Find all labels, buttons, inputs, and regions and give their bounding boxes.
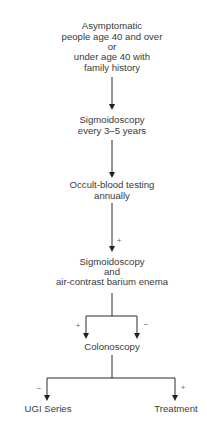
node-sigmoidoscopy-periodic-line-2: every 3–5 years: [78, 125, 146, 136]
node-start-line-1: Asymptomatic: [62, 20, 163, 31]
node-start-line-4: under age 40 with: [62, 51, 163, 62]
edge-label-positive: +: [181, 384, 186, 392]
node-sigmoidoscopy-barium-line-3: air-contrast barium enema: [56, 276, 168, 287]
node-occult-blood: Occult-blood testing annually: [70, 179, 155, 201]
edge-label-positive: +: [76, 322, 81, 330]
node-occult-blood-line-1: Occult-blood testing: [70, 179, 155, 190]
edge-barium-branch: [86, 316, 137, 335]
node-sigmoidoscopy-periodic-line-1: Sigmoidoscopy: [78, 114, 146, 125]
arrowhead-icon: [44, 395, 50, 401]
edge-label-positive: +: [117, 237, 122, 245]
arrowhead-icon: [109, 172, 115, 178]
node-colonoscopy-line-1: Colonoscopy: [84, 341, 139, 352]
node-colonoscopy: Colonoscopy: [84, 341, 139, 352]
node-ugi-series: UGI Series: [25, 403, 72, 414]
node-treatment: Treatment: [154, 403, 197, 414]
node-ugi-series-line-1: UGI Series: [25, 403, 72, 414]
node-start-line-5: family history: [62, 62, 163, 73]
edge-colonoscopy-branch: [47, 378, 175, 397]
arrowhead-icon: [109, 246, 115, 252]
arrowhead-icon: [83, 333, 89, 339]
node-sigmoidoscopy-barium-line-2: and: [56, 267, 168, 276]
node-sigmoidoscopy-periodic: Sigmoidoscopy every 3–5 years: [78, 114, 146, 136]
node-sigmoidoscopy-barium: Sigmoidoscopy and air-contrast barium en…: [56, 256, 168, 287]
node-treatment-line-1: Treatment: [154, 403, 197, 414]
arrowhead-icon: [172, 395, 178, 401]
node-occult-blood-line-2: annually: [70, 190, 155, 201]
node-start: Asymptomatic people age 40 and over or u…: [62, 20, 163, 73]
arrowhead-icon: [109, 104, 115, 110]
arrowhead-icon: [134, 333, 140, 339]
edge-label-negative: −: [37, 385, 42, 393]
node-start-line-3: or: [62, 42, 163, 51]
edge-label-negative: −: [144, 321, 149, 329]
